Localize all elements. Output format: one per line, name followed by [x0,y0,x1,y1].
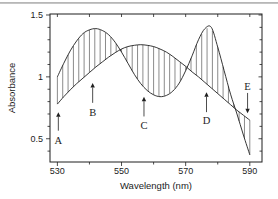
absorbance-chart: 5305505705900.511.5Wavelength (nm)Absorb… [0,0,278,199]
annotation-label-a: A [55,135,63,146]
screenshot-root: { "figure": { "background": "#ffffff", "… [0,0,278,199]
annotation-label-d: D [203,115,211,126]
y-tick-label: 1.5 [30,10,43,20]
annotation-label-c: C [140,120,147,131]
x-tick-label: 590 [242,166,257,176]
y-tick-label: 1 [38,72,43,82]
x-tick-label: 570 [178,166,193,176]
y-tick-label: 0.5 [30,134,43,144]
figure-background [0,0,278,199]
top-divider [0,2,278,4]
x-tick-label: 550 [114,166,129,176]
annotation-label-b: B [89,107,96,118]
spectra-figure: 5305505705900.511.5Wavelength (nm)Absorb… [0,0,278,199]
x-axis-label: Wavelength (nm) [120,180,192,191]
y-axis-label: Absorbance [6,63,17,114]
annotation-label-e: E [244,81,250,92]
x-tick-label: 530 [50,166,65,176]
